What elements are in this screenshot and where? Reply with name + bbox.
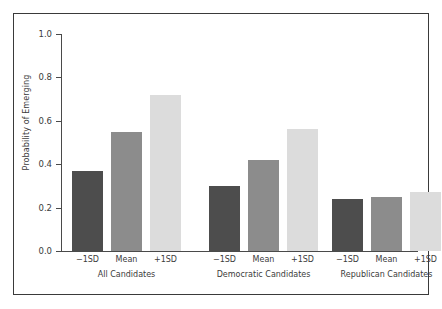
x-axis-spine (61, 251, 418, 252)
bar (287, 129, 318, 251)
y-tick: 0.0 (56, 251, 61, 252)
x-tick-label: +1SD (291, 255, 314, 264)
x-tick-label: Mean (253, 255, 275, 264)
bar (209, 186, 240, 251)
x-tick-label: −1SD (213, 255, 236, 264)
plot-area: Probability of Emerging 0.00.20.40.60.81… (14, 14, 428, 294)
x-tick-label: −1SD (76, 255, 99, 264)
x-tick-label: Mean (116, 255, 138, 264)
x-tick-label: +1SD (414, 255, 437, 264)
bar (332, 199, 363, 251)
bar (72, 171, 103, 251)
bar (150, 95, 181, 251)
bar (111, 132, 142, 251)
bar (371, 197, 402, 251)
bar (248, 160, 279, 251)
chart-figure: Probability of Emerging 0.00.20.40.60.81… (13, 13, 429, 295)
x-tick-label: +1SD (154, 255, 177, 264)
group-label: Democratic Candidates (217, 270, 311, 279)
bars-layer (14, 14, 428, 251)
group-label: All Candidates (98, 270, 156, 279)
group-label: Republican Candidates (341, 270, 433, 279)
x-tick-label: −1SD (336, 255, 359, 264)
x-tick-label: Mean (376, 255, 398, 264)
bar (410, 192, 441, 251)
